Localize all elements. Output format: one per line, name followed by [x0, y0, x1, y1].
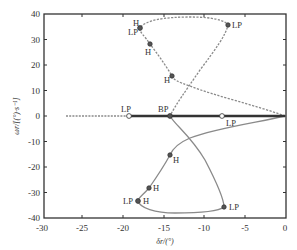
h-marker	[168, 153, 172, 157]
h-marker	[147, 186, 151, 190]
bp-marker	[168, 114, 173, 119]
y-tick-label: -10	[28, 137, 40, 147]
bp-label: BP	[158, 104, 169, 114]
x-tick-label: -5	[241, 223, 249, 233]
lp-label: LP	[121, 104, 131, 114]
h-label: H	[145, 47, 151, 57]
lp-label: LP	[232, 20, 242, 30]
lower-branch-curve	[138, 116, 285, 213]
x-tick-label: -10	[198, 223, 210, 233]
y-tick-label: 10	[31, 86, 41, 96]
h-label: H	[143, 196, 149, 206]
y-tick-label: -20	[28, 162, 40, 172]
y-tick-label: 30	[31, 35, 41, 45]
y-tick-label: 40	[31, 9, 41, 19]
x-tick-label: -25	[76, 223, 88, 233]
x-tick-label: 0	[283, 223, 288, 233]
h-label: H	[153, 183, 159, 193]
lp-label: LP	[123, 196, 133, 206]
h-label: H	[173, 155, 179, 165]
x-tick-label: -30	[36, 223, 48, 233]
x-tick-labels: -30 -25 -20 -15 -10 -5 0	[36, 223, 288, 233]
y-tick-label: -30	[28, 188, 40, 198]
x-axis-title: δr/(°)	[156, 237, 174, 246]
x-tick-label: -15	[158, 223, 170, 233]
y-tick-label: 20	[31, 60, 41, 70]
y-tick-label: -40	[28, 213, 40, 223]
x-tick-label: -20	[117, 223, 129, 233]
lp-label: LP	[229, 202, 239, 212]
lp-marker	[127, 114, 132, 119]
y-tick-labels: 40 30 20 10 0 -10 -20 -30 -40	[28, 9, 41, 223]
h-marker	[148, 42, 152, 46]
y-axis-title: ωr/[(°)·s⁻¹]	[12, 97, 21, 134]
bifurcation-chart: -30 -25 -20 -15 -10 -5 0 40 30 20 10 0 -…	[0, 0, 297, 250]
upper-branch-curve	[140, 17, 285, 116]
lp-marker	[222, 205, 226, 209]
lp-h-marker	[136, 199, 141, 204]
lp-marker	[220, 114, 225, 119]
lp-label: LP	[128, 27, 138, 37]
lp-marker	[226, 23, 230, 27]
y-tick-label: 0	[36, 111, 41, 121]
lp-label: LP	[226, 118, 236, 128]
h-marker	[170, 74, 174, 78]
h-label: H	[164, 75, 170, 85]
